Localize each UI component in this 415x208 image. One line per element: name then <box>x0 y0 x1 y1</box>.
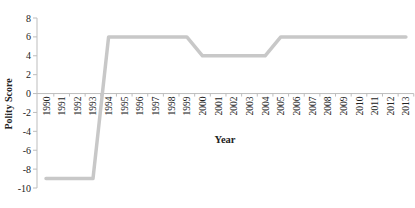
x-tick-label: 2004 <box>261 96 271 115</box>
y-tick-label: 2 <box>26 69 31 80</box>
y-tick-label: -2 <box>23 107 31 118</box>
x-tick-label: 1995 <box>120 96 130 115</box>
y-tick-label: -8 <box>23 164 31 175</box>
x-tick-label: 1999 <box>182 96 192 115</box>
x-axis-label: Year <box>215 134 236 145</box>
x-tick-label: 1991 <box>57 96 67 115</box>
x-tick-label: 1997 <box>151 96 161 115</box>
x-tick-label: 1990 <box>42 96 52 115</box>
y-tick-label: 8 <box>26 13 31 24</box>
x-tick-label: 1998 <box>167 96 177 115</box>
x-tick-label: 2002 <box>229 96 239 115</box>
y-axis: 86420-2-4-6-8-10 <box>18 13 37 194</box>
series-line <box>46 37 406 179</box>
x-tick-label: 2013 <box>401 96 411 115</box>
x-tick-label: 2010 <box>355 96 365 115</box>
x-tick-label: 2007 <box>308 96 318 115</box>
y-tick-label: 0 <box>26 88 31 99</box>
x-axis: 1990199119921993199419951996199719981999… <box>37 94 414 116</box>
y-tick-label: 4 <box>26 50 31 61</box>
x-tick-label: 1992 <box>73 96 83 115</box>
x-tick-label: 2000 <box>198 96 208 115</box>
x-tick-label: 2012 <box>386 96 396 115</box>
data-series <box>46 37 406 179</box>
y-tick-label: -4 <box>23 126 31 137</box>
y-tick-label: -6 <box>23 145 31 156</box>
x-tick-label: 1993 <box>88 96 98 115</box>
x-tick-label: 2001 <box>214 96 224 115</box>
x-tick-label: 2005 <box>276 96 286 115</box>
x-tick-label: 2009 <box>339 96 349 115</box>
x-tick-label: 1994 <box>104 96 114 115</box>
y-tick-label: -10 <box>18 183 31 194</box>
x-tick-label: 1996 <box>135 96 145 115</box>
x-tick-label: 2008 <box>323 96 333 115</box>
x-tick-label: 2003 <box>245 96 255 115</box>
y-tick-label: 6 <box>26 31 31 42</box>
x-tick-label: 2011 <box>370 96 380 115</box>
x-tick-label: 2006 <box>292 96 302 115</box>
y-axis-label: Polity Score <box>3 78 14 130</box>
line-chart: 86420-2-4-6-8-10 19901991199219931994199… <box>0 0 415 208</box>
